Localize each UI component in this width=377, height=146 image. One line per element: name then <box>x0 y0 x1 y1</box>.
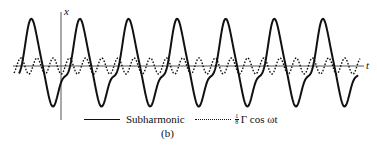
legend-subharmonic-label: Subharmonic <box>126 113 185 125</box>
vertical-axis-label: x <box>64 6 69 17</box>
legend-dotted-line-swatch <box>195 119 231 120</box>
subharmonic-curve-solid <box>19 19 358 107</box>
legend-forcing-label: Γ cos ωt <box>241 113 278 125</box>
legend-solid-line-swatch <box>84 119 120 120</box>
panel-caption: (b) <box>161 127 174 139</box>
horizontal-axis-label: t <box>366 60 369 71</box>
legend-fraction: 1 8 <box>235 114 239 125</box>
legend: Subharmonic 1 8 Γ cos ωt <box>84 113 278 125</box>
